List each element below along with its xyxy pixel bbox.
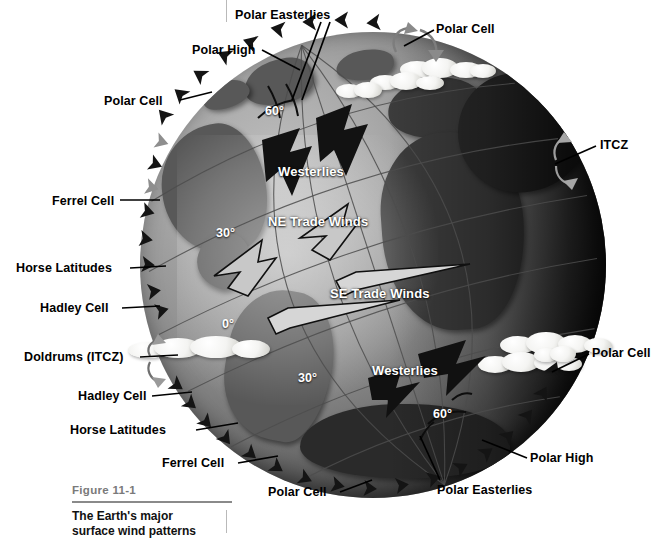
label-latitude-60-south: 60°	[433, 407, 452, 421]
label-doldrums-itcz: Doldrums (ITCZ)	[24, 350, 123, 364]
cloud-band-south-polar-3	[534, 346, 578, 364]
caption-line-1: The Earth's major	[72, 509, 252, 524]
figure-number: Figure 11-1	[72, 484, 252, 499]
label-polar-high-top-left: Polar High	[192, 43, 256, 57]
label-polar-easterlies-bottom: Polar Easterlies	[437, 483, 532, 497]
cloud-band-itcz-west	[128, 336, 270, 362]
label-latitude-0-equator: 0°	[222, 317, 234, 331]
label-ferrel-cell-south: Ferrel Cell	[162, 456, 224, 470]
label-ferrel-cell-left: Ferrel Cell	[52, 194, 114, 208]
cloud-band-north-polar-3	[336, 82, 388, 100]
caption-line-2: surface wind patterns	[72, 524, 252, 539]
earth-globe	[140, 32, 606, 498]
caption-rule	[72, 501, 232, 503]
label-polar-cell-top-left: Polar Cell	[104, 94, 163, 108]
label-westerlies-north: Westerlies	[278, 164, 344, 179]
label-latitude-60-north: 60°	[265, 104, 284, 118]
crop-mark-top	[226, 0, 227, 22]
label-horse-latitudes-north: Horse Latitudes	[16, 261, 112, 275]
label-polar-high-bottom: Polar High	[530, 451, 594, 465]
figure-caption: Figure 11-1 The Earth's major surface wi…	[72, 484, 252, 539]
label-latitude-30-south: 30°	[298, 371, 317, 385]
label-polar-cell-right: Polar Cell	[592, 346, 651, 360]
latitude-longitude-grid	[140, 32, 606, 498]
label-hadley-cell-south: Hadley Cell	[78, 389, 147, 403]
label-se-trade-winds: SE Trade Winds	[330, 286, 430, 301]
label-hadley-cell-north: Hadley Cell	[40, 301, 109, 315]
label-horse-latitudes-south: Horse Latitudes	[70, 423, 166, 437]
label-polar-easterlies-top: Polar Easterlies	[235, 8, 330, 22]
label-polar-cell-top-right: Polar Cell	[436, 22, 495, 36]
label-westerlies-south: Westerlies	[372, 363, 438, 378]
label-polar-cell-bottom: Polar Cell	[268, 485, 327, 499]
globe-sphere	[140, 32, 606, 498]
label-itcz-right: ITCZ	[600, 138, 628, 152]
label-latitude-30-north: 30°	[216, 226, 235, 240]
label-ne-trade-winds: NE Trade Winds	[268, 214, 368, 229]
